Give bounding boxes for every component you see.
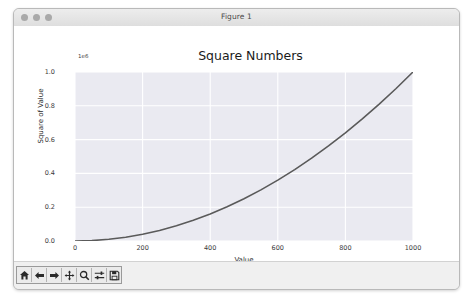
y-tick-label: 0.8 <box>15 102 55 110</box>
plot-svg <box>75 72 413 241</box>
home-icon[interactable] <box>17 268 32 282</box>
plot-axes <box>75 72 413 241</box>
y-tick-label: 1.0 <box>15 68 55 76</box>
figure-window: Figure 1 Square Numbers 1e6 0.00.20.40.6… <box>13 8 460 290</box>
matplotlib-toolbar <box>14 261 459 289</box>
window-titlebar[interactable]: Figure 1 <box>14 9 459 27</box>
x-tick-label: 200 <box>123 244 163 252</box>
y-axis-offset-text: 1e6 <box>78 53 88 59</box>
x-tick-label: 1000 <box>393 244 433 252</box>
y-tick-label: 0.0 <box>15 237 55 245</box>
y-tick-label: 0.2 <box>15 203 55 211</box>
y-axis-label: Square of Value <box>37 71 45 161</box>
back-arrow-icon[interactable] <box>32 268 47 282</box>
figure-canvas[interactable]: Square Numbers 1e6 0.00.20.40.60.81.0 02… <box>14 26 459 263</box>
configure-subplots-sliders-icon[interactable] <box>92 268 107 282</box>
y-tick-label: 0.4 <box>15 169 55 177</box>
x-tick-label: 600 <box>258 244 298 252</box>
zoom-magnifier-icon[interactable] <box>77 268 92 282</box>
pan-move-icon[interactable] <box>62 268 77 282</box>
chart-title: Square Numbers <box>75 48 426 63</box>
toolbar-button-group <box>16 266 122 284</box>
x-tick-label: 800 <box>325 244 365 252</box>
window-title: Figure 1 <box>14 12 459 21</box>
y-tick-label: 0.6 <box>15 136 55 144</box>
data-line-square-of-value <box>75 72 413 241</box>
x-tick-label: 400 <box>190 244 230 252</box>
forward-arrow-icon[interactable] <box>47 268 62 282</box>
save-disk-icon[interactable] <box>107 268 121 282</box>
gridlines <box>75 72 413 241</box>
x-tick-label: 0 <box>55 244 95 252</box>
